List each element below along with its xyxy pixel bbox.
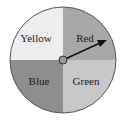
spinner-diagram: Yellow Red Blue Green xyxy=(0,0,123,123)
section-red xyxy=(63,0,123,60)
section-yellow xyxy=(0,0,63,60)
section-green xyxy=(63,60,123,123)
spinner-hub xyxy=(59,56,67,64)
label-blue: Blue xyxy=(29,75,50,87)
label-red: Red xyxy=(76,32,94,44)
label-green: Green xyxy=(73,75,100,87)
section-blue xyxy=(0,60,63,123)
label-yellow: Yellow xyxy=(20,32,51,44)
